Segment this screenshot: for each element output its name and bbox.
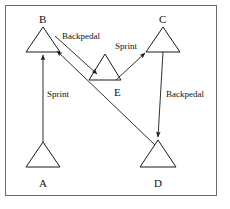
edge-label-c-to-d: Backpedal: [166, 90, 204, 99]
edge-label-e-to-c: Sprint: [115, 42, 137, 51]
edge-label-b-to-e: Backpedal: [62, 32, 100, 41]
node-triangle-c[interactable]: [146, 27, 180, 52]
node-triangle-d[interactable]: [140, 140, 176, 167]
diagram-svg: [0, 0, 230, 209]
diagram-canvas: ABCDESprintBackpedalSprintBackpedal: [0, 0, 230, 209]
edge-c-to-d[interactable]: [158, 52, 163, 137]
node-label-e: E: [114, 87, 121, 98]
node-triangle-a[interactable]: [26, 142, 60, 167]
node-triangle-b[interactable]: [26, 27, 60, 52]
node-label-b: B: [39, 14, 46, 25]
node-label-c: C: [159, 14, 166, 25]
node-label-a: A: [39, 178, 47, 189]
edge-label-a-to-b: Sprint: [47, 90, 69, 99]
edge-d-to-b[interactable]: [57, 51, 155, 145]
edge-e-to-c[interactable]: [116, 53, 145, 80]
node-triangle-e[interactable]: [89, 54, 121, 80]
node-label-d: D: [154, 178, 162, 189]
